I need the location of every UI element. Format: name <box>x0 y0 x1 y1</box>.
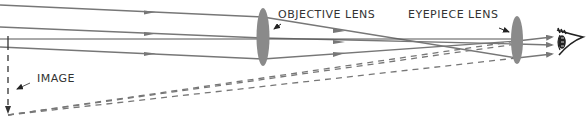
incoming-rays <box>0 5 263 59</box>
image-pointer-arrow <box>17 83 30 89</box>
image-label: IMAGE <box>37 72 75 85</box>
eyepiece-lens-label: EYEPIECE LENS <box>408 8 498 21</box>
eyepiece-pointer-arrow <box>499 28 509 32</box>
objective-lens <box>257 8 270 66</box>
intermediate-rays <box>263 17 517 59</box>
eyepiece-lens <box>511 16 523 64</box>
eye-icon <box>557 28 583 55</box>
objective-lens-label: OBJECTIVE LENS <box>278 8 375 21</box>
objective-pointer-arrow <box>274 24 281 29</box>
